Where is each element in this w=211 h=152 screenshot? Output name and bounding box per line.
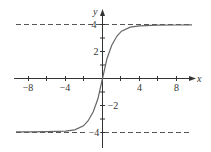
chart: x y −8 −4 4 8 4 2 −2 −4 (0, 0, 211, 152)
x-tick-label: −4 (60, 82, 71, 93)
y-axis-arrow-icon (100, 9, 105, 16)
y-tick-label: 4 (92, 19, 97, 30)
x-axis-label: x (196, 73, 202, 84)
y-tick-label: 2 (94, 46, 99, 57)
y-tick-label: −4 (89, 127, 100, 138)
y-tick-label: −2 (108, 100, 119, 111)
x-tick-label: 8 (174, 82, 179, 93)
x-tick-label: −8 (23, 82, 34, 93)
x-tick-label: 4 (137, 82, 142, 93)
x-axis-arrow-icon (189, 76, 196, 81)
y-axis-label: y (92, 6, 98, 17)
